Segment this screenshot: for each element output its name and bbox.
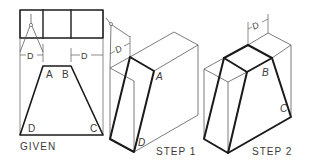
step2-bounding-box (204, 33, 291, 153)
dimension-d: D (248, 19, 268, 32)
divider-compass-icon (20, 14, 43, 52)
svg-text:D: D (81, 51, 88, 61)
label-b: B (262, 67, 269, 78)
caption-step1: STEP 1 (156, 146, 196, 157)
step1-bounding-box (110, 32, 198, 152)
dimension-d: D (110, 43, 130, 55)
svg-text:D: D (250, 20, 261, 32)
label-c: C (90, 123, 97, 134)
step2-panel: D B C STEP 2 (204, 14, 292, 157)
caption-step2: STEP 2 (252, 146, 292, 157)
step2-object-outline (204, 45, 291, 153)
dimension-d-left: D (20, 51, 43, 61)
oblique-surface-isometric-diagram: D D A B D C GIVEN (0, 0, 312, 164)
svg-text:D: D (113, 43, 124, 55)
label-d: D (28, 123, 35, 134)
given-panel: D D A B D C GIVEN (20, 10, 103, 152)
svg-text:D: D (27, 51, 34, 61)
label-c: C (280, 103, 288, 114)
dimension-d-right: D (71, 51, 103, 61)
label-d: D (138, 137, 145, 148)
label-a: A (46, 69, 53, 80)
label-a: A (155, 71, 163, 82)
caption-given: GIVEN (20, 141, 56, 152)
step1-panel: D A D STEP 1 (106, 18, 198, 157)
label-b: B (62, 69, 69, 80)
